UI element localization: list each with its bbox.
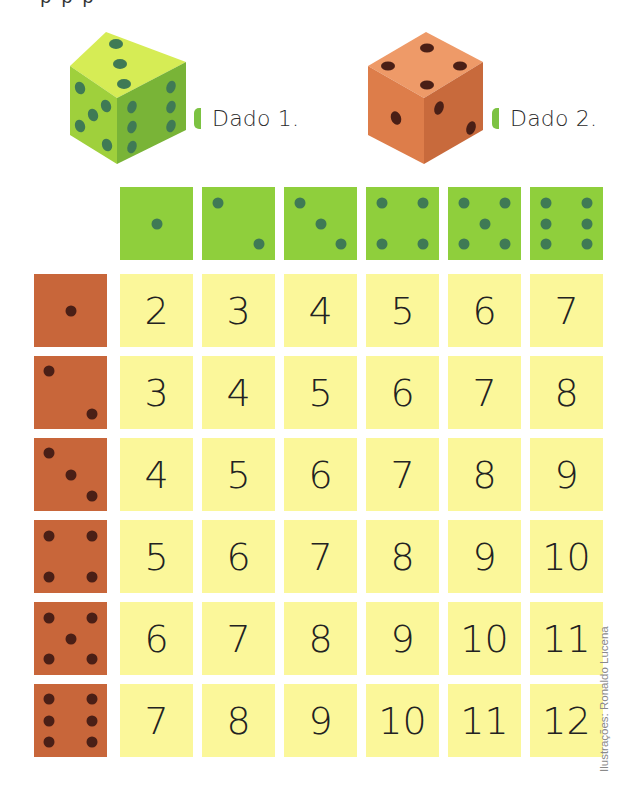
sum-cell: 7: [202, 602, 275, 675]
pip-icon: [43, 693, 54, 704]
pip-icon: [43, 653, 54, 664]
row-die2-face-4: [34, 520, 107, 593]
pip-icon: [417, 198, 428, 209]
illustration-credit: Ilustrações: Ronaldo Lucena: [598, 626, 610, 772]
sum-cell: 9: [448, 520, 521, 593]
sum-cell: 5: [120, 520, 193, 593]
sum-cell: 10: [530, 520, 603, 593]
orange-die-illustration: [364, 28, 489, 168]
die-2-label: Dado 2.: [492, 106, 597, 131]
pip-icon: [335, 238, 346, 249]
sum-cell: 10: [366, 684, 439, 757]
pip-icon: [581, 238, 592, 249]
sum-cell: 9: [366, 602, 439, 675]
green-die-illustration: [66, 28, 191, 168]
sum-cell: 6: [448, 274, 521, 347]
sum-cell: 7: [366, 438, 439, 511]
sum-cell: 4: [120, 438, 193, 511]
pip-icon: [65, 469, 76, 480]
sum-cell: 10: [448, 602, 521, 675]
pip-icon: [479, 218, 490, 229]
pip-icon: [541, 238, 552, 249]
pip-icon: [87, 571, 98, 582]
pip-icon: [65, 633, 76, 644]
die-2-label-text: Dado 2.: [510, 106, 597, 131]
sum-cell: 7: [284, 520, 357, 593]
label-marker-icon: [492, 108, 499, 129]
pip-icon: [87, 531, 98, 542]
sum-cell: 5: [366, 274, 439, 347]
sum-cell: 8: [448, 438, 521, 511]
sum-cell: 9: [284, 684, 357, 757]
pip-icon: [87, 715, 98, 726]
sum-cell: 11: [530, 602, 603, 675]
pip-icon: [87, 409, 98, 420]
sum-cell: 6: [202, 520, 275, 593]
pip-icon: [459, 198, 470, 209]
sum-cell: 11: [448, 684, 521, 757]
pip-icon: [377, 198, 388, 209]
header-die1-face-2: [202, 187, 275, 260]
pip-icon: [213, 198, 224, 209]
pip-icon: [541, 198, 552, 209]
pip-icon: [43, 447, 54, 458]
pip-icon: [541, 218, 552, 229]
row-die2-face-5: [34, 602, 107, 675]
pip-icon: [65, 305, 76, 316]
sum-cell: 3: [120, 356, 193, 429]
pip-icon: [43, 571, 54, 582]
pip-icon: [43, 365, 54, 376]
header-die1-face-1: [120, 187, 193, 260]
pip-icon: [87, 613, 98, 624]
pip-icon: [581, 198, 592, 209]
sum-cell: 8: [202, 684, 275, 757]
sum-cell: 5: [284, 356, 357, 429]
pip-icon: [87, 491, 98, 502]
pip-icon: [295, 198, 306, 209]
die-1-label-text: Dado 1.: [212, 106, 299, 131]
row-die2-face-2: [34, 356, 107, 429]
row-die2-face-1: [34, 274, 107, 347]
header-die1-face-6: [530, 187, 603, 260]
pip-icon: [459, 238, 470, 249]
header-die1-face-3: [284, 187, 357, 260]
sum-cell: 5: [202, 438, 275, 511]
sum-cell: 6: [120, 602, 193, 675]
sum-cell: 6: [366, 356, 439, 429]
pip-icon: [377, 238, 388, 249]
sum-cell: 7: [120, 684, 193, 757]
sum-cell: 8: [366, 520, 439, 593]
sum-cell: 9: [530, 438, 603, 511]
sum-cell: 8: [530, 356, 603, 429]
sum-cell: 7: [530, 274, 603, 347]
pip-icon: [151, 218, 162, 229]
pip-icon: [253, 238, 264, 249]
sum-cell: 12: [530, 684, 603, 757]
row-die2-face-6: [34, 684, 107, 757]
header-die1-face-4: [366, 187, 439, 260]
pip-icon: [87, 693, 98, 704]
row-die2-face-3: [34, 438, 107, 511]
sum-cell: 3: [202, 274, 275, 347]
pip-icon: [417, 238, 428, 249]
header-die1-face-5: [448, 187, 521, 260]
sum-cell: 4: [202, 356, 275, 429]
pip-icon: [43, 531, 54, 542]
pip-icon: [43, 613, 54, 624]
sum-cell: 4: [284, 274, 357, 347]
pip-icon: [87, 653, 98, 664]
sum-cell: 8: [284, 602, 357, 675]
cut-off-heading-text: p p p: [40, 0, 96, 7]
sum-cell: 2: [120, 274, 193, 347]
pip-icon: [499, 198, 510, 209]
sum-cell: 7: [448, 356, 521, 429]
die-1-label: Dado 1.: [194, 106, 299, 131]
sum-cell: 6: [284, 438, 357, 511]
pip-icon: [499, 238, 510, 249]
pip-icon: [315, 218, 326, 229]
label-marker-icon: [194, 108, 201, 129]
pip-icon: [43, 715, 54, 726]
pip-icon: [87, 737, 98, 748]
pip-icon: [581, 218, 592, 229]
pip-icon: [43, 737, 54, 748]
